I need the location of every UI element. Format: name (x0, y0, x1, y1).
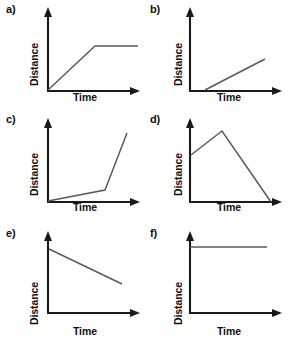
x-axis-arrow-f (272, 309, 282, 317)
y-axis-label-a: Distance (29, 43, 40, 86)
x-axis-arrow-c (130, 198, 140, 206)
graph-panel-c: c) Distance Time (0, 110, 144, 223)
plot-svg-c (0, 110, 144, 223)
x-axis-label-d: Time (217, 202, 241, 213)
plot-area-a (0, 0, 144, 113)
graph-panel-a: a) Distance Time (0, 0, 144, 113)
figure-sheet: a) Distance Time b) Distance Tim (0, 0, 288, 340)
y-axis-label-e: Distance (29, 282, 40, 325)
plot-area-b (144, 0, 288, 113)
graph-panel-b: b) Distance Time (144, 0, 288, 113)
plot-area-e (0, 222, 144, 335)
x-axis-arrow-a (130, 87, 140, 95)
x-axis-arrow-b (272, 87, 282, 95)
plot-svg-d (144, 110, 288, 223)
plot-svg-e (0, 222, 144, 335)
y-axis-label-c: Distance (29, 153, 40, 196)
plot-svg-b (144, 0, 288, 113)
plot-svg-a (0, 0, 144, 113)
graph-panel-e: e) Distance Time (0, 222, 144, 335)
data-curve-a (48, 46, 138, 90)
x-axis-label-e: Time (73, 326, 97, 337)
y-axis-arrow-f (186, 231, 194, 241)
graph-panel-d: d) Distance Time (144, 110, 288, 223)
y-axis-arrow-b (186, 7, 194, 17)
y-axis-label-f: Distance (173, 282, 184, 325)
y-axis-label-d: Distance (173, 153, 184, 196)
x-axis-label-c: Time (73, 202, 97, 213)
y-axis-arrow-e (44, 231, 52, 241)
x-axis-arrow-d (272, 198, 282, 206)
plot-area-c (0, 110, 144, 223)
y-axis-arrow-c (44, 118, 52, 128)
x-axis-arrow-e (130, 309, 140, 317)
x-axis-label-f: Time (217, 326, 241, 337)
y-axis-arrow-d (186, 118, 194, 128)
graph-panel-f: f) Distance Time (144, 222, 288, 335)
y-axis-label-b: Distance (173, 43, 184, 86)
plot-area-f (144, 222, 288, 335)
data-curve-e (49, 249, 122, 284)
data-curve-b (205, 59, 265, 90)
y-axis-arrow-a (44, 7, 52, 17)
x-axis-label-b: Time (217, 92, 241, 103)
x-axis-label-a: Time (73, 92, 97, 103)
data-curve-d (191, 131, 271, 202)
plot-svg-f (144, 222, 288, 335)
plot-area-d (144, 110, 288, 223)
data-curve-c (48, 133, 127, 201)
